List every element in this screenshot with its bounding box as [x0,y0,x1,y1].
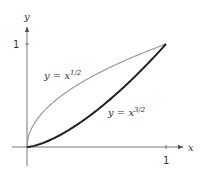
x-tick-label: 1 [163,155,169,166]
y-tick-label: 1 [13,39,19,50]
x-axis-label: x [188,142,194,153]
curve-x-1-2 [27,44,166,147]
y-axis-label: y [23,11,30,22]
chart: x y 1 1 y = x1/2 y = x3/2 [0,0,203,177]
label-x-1-2: y = x1/2 [43,69,82,81]
label-x-3-2: y = x3/2 [107,106,146,118]
curve-x-3-2 [27,44,166,147]
